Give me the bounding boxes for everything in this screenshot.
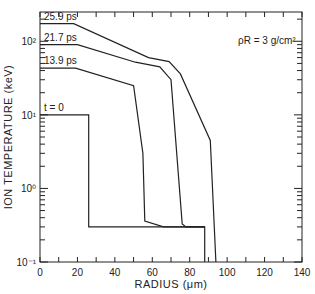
curve-label: t = 0 <box>44 102 64 113</box>
x-tick-label: 140 <box>294 267 311 278</box>
x-tick-label: 100 <box>219 267 236 278</box>
y-axis-label: ION TEMPERATURE (keV) <box>2 65 14 210</box>
ion-temperature-chart: t = 013.9 ps21.7 ps25.9 ps 0204060801001… <box>0 0 315 294</box>
curve-label: 13.9 ps <box>44 55 77 66</box>
y-tick-label: 10¹ <box>22 110 37 121</box>
curve-label: 21.7 ps <box>44 32 77 43</box>
x-tick-label: 40 <box>109 267 121 278</box>
rho-r-annotation: ρR = 3 g/cm² <box>238 35 296 46</box>
x-tick-label: 80 <box>184 267 196 278</box>
x-tick-labels: 020406080100120140 <box>37 267 311 278</box>
y-tick-label: 10² <box>22 36 37 47</box>
y-tick-label: 10⁰ <box>21 183 36 194</box>
x-axis-label: RADIUS (μm) <box>135 278 208 290</box>
curve-label: 25.9 ps <box>44 11 77 22</box>
axis-ticks <box>40 12 302 262</box>
plot-frame <box>40 12 302 262</box>
x-tick-label: 0 <box>37 267 43 278</box>
x-tick-label: 60 <box>147 267 159 278</box>
curve-labels: t = 013.9 ps21.7 ps25.9 ps <box>44 11 77 113</box>
x-tick-label: 20 <box>72 267 84 278</box>
y-tick-labels: 10⁻¹10⁰10¹10² <box>17 36 37 268</box>
curve-21-7-ps <box>40 45 205 227</box>
x-tick-label: 120 <box>256 267 273 278</box>
y-tick-label: 10⁻¹ <box>17 257 37 268</box>
